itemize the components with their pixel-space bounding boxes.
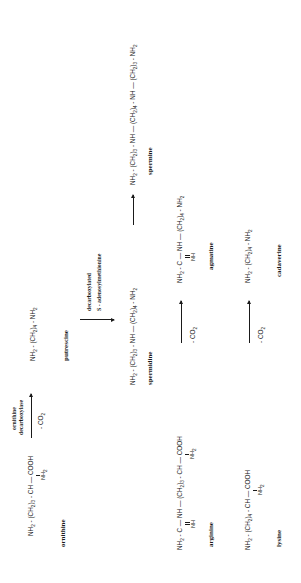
pathway-diagram: NH2 - (CH2)3 - CH — COOH NH2 ornithine o… — [0, 0, 301, 583]
ornithine-label: ornithine — [60, 519, 67, 547]
arginine-amino-group: NH2 — [190, 448, 196, 459]
enzyme-label-decarboxylase: decarboxylase — [19, 400, 25, 435]
samd-label-line2: S - adenosylmethionine — [97, 254, 103, 311]
arrow-arginine-to-agmatine — [181, 301, 182, 343]
cadaverine-formula: NH2 - (CH2)4 - NH2 — [245, 229, 251, 283]
samd-label-line1: decarboxylated — [87, 273, 93, 311]
cadaverine-label: cadaverine — [276, 244, 283, 277]
ornithine-amino-group: NH2 — [41, 469, 47, 480]
arginine-label: arginine — [208, 522, 215, 547]
spermine-formula: NH2 - (CH2)3 - NH — (CH2)4 - NH — (CH2)3… — [130, 44, 136, 185]
lysine-formula: NH2 - (CH2)4 - CH — COOH — [245, 470, 251, 550]
arrow-spermidine-to-spermine — [133, 195, 134, 225]
arrow-putrescine-to-spermidine — [80, 319, 114, 320]
co2-label-2: - CO2 — [190, 327, 196, 343]
co2-label-1: - CO2 — [38, 413, 44, 429]
agmatine-imino-group: NH — [191, 253, 197, 261]
arrow-ornithine-to-putrescine — [31, 394, 32, 438]
agmatine-label: agmatine — [208, 242, 215, 270]
arginine-formula: NH2 - C — NH — (CH2)3 - CH — COOH — [177, 436, 183, 550]
putrescine-formula: NH2 - (CH2)4 - NH2 — [30, 307, 36, 361]
spermidine-formula: NH2 - (CH2)3 - NH — (CH2)4 - NH2 — [130, 288, 136, 385]
putrescine-label: putrescine — [63, 330, 70, 361]
agmatine-formula: NH2 - C — NH — (CH2)4 - NH2 — [177, 196, 183, 283]
arrow-lysine-to-cadaverine — [249, 301, 250, 343]
arginine-imino-group: NH — [191, 520, 197, 528]
lysine-amino-group: NH2 — [258, 484, 264, 495]
spermine-label: spermine — [147, 147, 154, 175]
spermidine-label: spermidine — [147, 352, 154, 385]
enzyme-label-ornithine: ornithine — [12, 407, 18, 430]
ornithine-formula: NH2 - (CH2)3 - CH — COOH — [28, 456, 34, 536]
co2-label-3: - CO2 — [258, 327, 264, 343]
lysine-label: lysine — [276, 530, 283, 547]
